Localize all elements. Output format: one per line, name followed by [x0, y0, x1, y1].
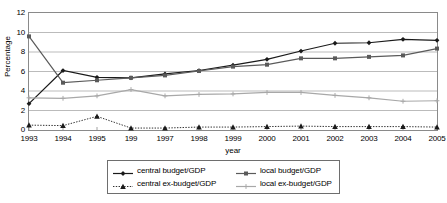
legend-row: central ex-budget/GDP local ex-budget/GD… — [112, 177, 335, 190]
legend-label: local budget/GDP — [260, 166, 321, 175]
x-axis-tick-labels: 1993199419951991997199819992000200120022… — [28, 134, 438, 145]
x-axis-tick: 2005 — [417, 134, 447, 143]
legend-row: central budget/GDP local budget/GDP — [112, 164, 335, 177]
y-axis-tick: 2 — [1, 107, 25, 115]
diamond-marker-icon — [112, 165, 134, 176]
square-marker-icon — [235, 165, 257, 176]
legend-item-central-budget[interactable]: central budget/GDP — [112, 164, 235, 177]
line-chart: 024681012 Percentage 1993199419951991997… — [0, 0, 447, 203]
legend-item-local-ex-budget[interactable]: local ex-budget/GDP — [235, 177, 335, 190]
legend-item-local-budget[interactable]: local budget/GDP — [235, 164, 335, 177]
legend-label: central ex-budget/GDP — [137, 179, 216, 188]
legend-label: local ex-budget/GDP — [260, 179, 332, 188]
y-axis-title: Percentage — [3, 22, 12, 92]
series-lines — [29, 13, 437, 130]
cross-marker-icon — [235, 178, 257, 189]
series-central-ex-budget-gdp — [26, 114, 440, 131]
legend-item-central-ex-budget[interactable]: central ex-budget/GDP — [112, 177, 235, 190]
y-axis-tick: 0 — [1, 126, 25, 134]
series-local-ex-budget-gdp — [27, 87, 440, 104]
triangle-marker-icon — [112, 178, 134, 189]
x-axis-title: year — [28, 146, 438, 155]
y-axis-tick: 12 — [1, 9, 25, 17]
chart-legend: central budget/GDP local budget/GDP cent… — [107, 160, 340, 194]
legend-label: central budget/GDP — [137, 166, 205, 175]
plot-area — [28, 12, 438, 131]
